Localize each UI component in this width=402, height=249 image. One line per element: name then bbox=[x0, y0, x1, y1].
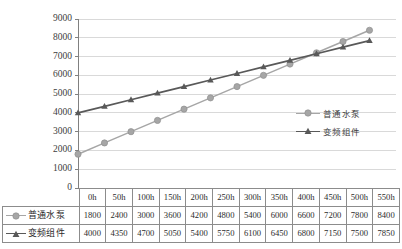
chart-figure: 0100020003000400050006000700080009000 普通… bbox=[0, 0, 402, 249]
table-column-header: 300h bbox=[239, 189, 266, 207]
legend-label-0: 普通水泵 bbox=[320, 107, 360, 119]
table-column-header: 500h bbox=[346, 189, 373, 207]
table-cell: 3600 bbox=[159, 207, 186, 225]
table-column-header: 50h bbox=[106, 189, 133, 207]
table-cell: 4350 bbox=[106, 225, 133, 243]
table-key-triangle-icon bbox=[5, 228, 27, 240]
table-series-name-cell: 普通水泵 bbox=[3, 207, 80, 225]
legend-key-circle-icon bbox=[296, 107, 320, 119]
table-series-name-cell: 变频组件 bbox=[3, 225, 80, 243]
table-row: 变频组件400043504700505054005750610064506800… bbox=[3, 225, 400, 243]
table-cell: 4800 bbox=[213, 207, 240, 225]
table-cell: 4700 bbox=[132, 225, 159, 243]
table-header-row: 0h50h100h150h200h250h300h350h400h450h500… bbox=[3, 189, 400, 207]
table-row: 普通水泵180024003000360042004800540060006600… bbox=[3, 207, 400, 225]
data-point-circle bbox=[128, 129, 134, 135]
data-point-circle bbox=[340, 38, 346, 44]
table-cell: 6100 bbox=[239, 225, 266, 243]
legend-item-0[interactable]: 普通水泵 bbox=[296, 106, 360, 120]
circle-marker-icon bbox=[304, 109, 312, 117]
table-cell: 7800 bbox=[346, 207, 373, 225]
table-column-header: 400h bbox=[293, 189, 320, 207]
data-point-circle bbox=[101, 140, 107, 146]
table-series-name-text: 普通水泵 bbox=[27, 207, 65, 224]
table-cell: 5750 bbox=[213, 225, 240, 243]
table-column-header: 550h bbox=[373, 189, 400, 207]
data-point-circle bbox=[366, 27, 372, 33]
table-cell: 7200 bbox=[319, 207, 346, 225]
series-line-1 bbox=[78, 41, 370, 113]
table-series-name-text: 变频组件 bbox=[27, 225, 65, 242]
table-cell: 5400 bbox=[186, 225, 213, 243]
chart-plot-area: 0100020003000400050006000700080009000 bbox=[0, 0, 402, 190]
triangle-marker-icon bbox=[12, 230, 20, 238]
chart-legend: 普通水泵 变频组件 bbox=[296, 106, 396, 140]
table-cell: 6450 bbox=[266, 225, 293, 243]
table-cell: 3000 bbox=[132, 207, 159, 225]
table-cell: 7150 bbox=[319, 225, 346, 243]
table-cell: 4000 bbox=[79, 225, 106, 243]
data-point-circle bbox=[75, 151, 81, 157]
table-cell: 6800 bbox=[293, 225, 320, 243]
data-point-circle bbox=[154, 117, 160, 123]
data-point-circle bbox=[234, 84, 240, 90]
table-column-header: 450h bbox=[319, 189, 346, 207]
table-column-header: 150h bbox=[159, 189, 186, 207]
table-column-header: 250h bbox=[213, 189, 240, 207]
chart-canvas bbox=[0, 0, 402, 190]
table-cell: 8400 bbox=[373, 207, 400, 225]
table-cell: 7850 bbox=[373, 225, 400, 243]
triangle-marker-icon bbox=[304, 127, 312, 135]
table-key-circle-icon bbox=[5, 210, 27, 222]
legend-label-1: 变频组件 bbox=[320, 125, 360, 137]
table-cell: 4200 bbox=[186, 207, 213, 225]
chart-data-table: 0h50h100h150h200h250h300h350h400h450h500… bbox=[2, 188, 400, 243]
data-point-circle bbox=[260, 72, 266, 78]
table-cell: 2400 bbox=[106, 207, 133, 225]
table-cell: 5050 bbox=[159, 225, 186, 243]
legend-key-triangle-icon bbox=[296, 125, 320, 137]
table-column-header: 0h bbox=[79, 189, 106, 207]
table-cell: 5400 bbox=[239, 207, 266, 225]
table-column-header: 200h bbox=[186, 189, 213, 207]
table-cell: 1800 bbox=[79, 207, 106, 225]
table-column-header: 100h bbox=[132, 189, 159, 207]
table-cell: 6600 bbox=[293, 207, 320, 225]
data-point-circle bbox=[207, 95, 213, 101]
table-cell: 6000 bbox=[266, 207, 293, 225]
table-column-header: 350h bbox=[266, 189, 293, 207]
table-cell: 7500 bbox=[346, 225, 373, 243]
legend-item-1[interactable]: 变频组件 bbox=[296, 124, 360, 138]
data-point-circle bbox=[181, 106, 187, 112]
table-corner-cell bbox=[3, 189, 80, 207]
circle-marker-icon bbox=[12, 212, 20, 220]
